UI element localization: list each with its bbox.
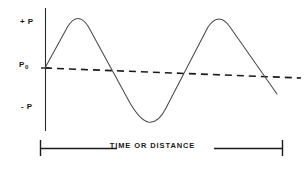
y-axis-label-p-zero-subscript: 0: [25, 64, 28, 70]
y-axis-label-p-zero: P0: [19, 61, 28, 69]
y-axis-label-p-zero-prefix: P: [19, 60, 25, 69]
x-axis-caption: TIME OR DISTANCE: [0, 142, 305, 150]
pressure-waveform-figure: + P P0 - P TIME OR DISTANCE: [0, 0, 305, 169]
y-axis-label-negative-p: - P: [21, 103, 32, 111]
y-axis-label-positive-p: + P: [20, 18, 33, 26]
waveform-curve: [45, 19, 277, 123]
